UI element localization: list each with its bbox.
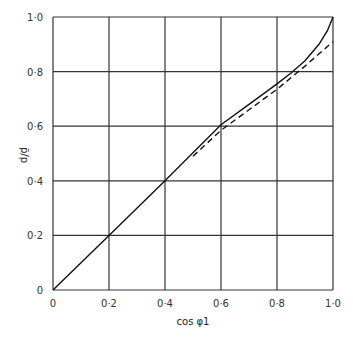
- y-tick-label: 0: [37, 285, 43, 296]
- y-tick-label: 0·2: [27, 230, 43, 241]
- x-tick-labels: 00·20·40·60·81·0: [50, 298, 341, 309]
- x-tick-label: 0: [50, 298, 56, 309]
- x-axis-label: cos φ1: [177, 316, 210, 327]
- y-axis-label: p̄/p: [19, 147, 30, 163]
- y-tick-label: 0·4: [27, 176, 43, 187]
- y-tick-label: 0·8: [27, 67, 43, 78]
- y-tick-label: 0·6: [27, 121, 43, 132]
- series-solid: [53, 17, 333, 290]
- x-tick-label: 0·4: [157, 298, 173, 309]
- series-lines: [53, 17, 333, 290]
- x-tick-label: 0·2: [101, 298, 117, 309]
- y-tick-label: 1·0: [27, 12, 43, 23]
- chart: 00·20·40·60·81·0 00·20·40·60·81·0 cos φ1…: [0, 0, 353, 339]
- series-dashed: [193, 42, 333, 157]
- x-tick-label: 0·8: [269, 298, 285, 309]
- x-tick-label: 0·6: [213, 298, 229, 309]
- x-tick-label: 1·0: [325, 298, 341, 309]
